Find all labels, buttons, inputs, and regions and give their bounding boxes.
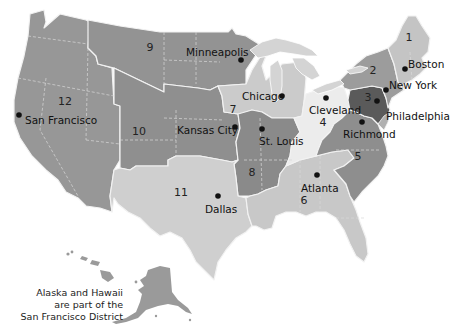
city-label: Cleveland bbox=[309, 104, 361, 116]
city-label: Minneapolis bbox=[186, 46, 249, 58]
city-label: Chicago bbox=[242, 90, 284, 102]
alaska-island bbox=[155, 315, 157, 317]
city-label: New York bbox=[389, 79, 438, 91]
city-label: Boston bbox=[408, 58, 444, 70]
city-label: Atlanta bbox=[301, 182, 339, 194]
lake-superior bbox=[250, 38, 318, 58]
district-number-7: 7 bbox=[230, 103, 237, 116]
city-kansas-city[interactable]: Kansas City bbox=[177, 124, 238, 136]
city-boston[interactable]: Boston bbox=[402, 58, 444, 72]
city-label: Dallas bbox=[205, 203, 237, 215]
district-number-1: 1 bbox=[406, 31, 413, 44]
city-dot bbox=[374, 98, 380, 104]
alaska-island bbox=[189, 319, 191, 321]
district-number-8: 8 bbox=[249, 166, 256, 179]
district-number-10: 10 bbox=[132, 125, 146, 138]
city-label: San Francisco bbox=[25, 114, 97, 126]
city-san-francisco[interactable]: San Francisco bbox=[16, 112, 97, 126]
city-chicago[interactable]: Chicago bbox=[242, 90, 285, 102]
city-dot bbox=[259, 126, 265, 132]
note-line-3: San Francisco District bbox=[0, 311, 123, 323]
city-label: Kansas City bbox=[177, 124, 238, 136]
city-label: Philadelphia bbox=[386, 110, 450, 122]
city-label: St. Louis bbox=[259, 135, 304, 147]
city-dot bbox=[323, 95, 329, 101]
city-label: Richmond bbox=[343, 128, 396, 140]
alaska-island bbox=[135, 281, 138, 284]
district-number-4: 4 bbox=[320, 116, 327, 129]
alaska-hawaii-note: Alaska and Hawaii are part of the San Fr… bbox=[0, 287, 123, 323]
district-number-3: 3 bbox=[365, 91, 372, 104]
district-number-12: 12 bbox=[58, 95, 72, 108]
federal-reserve-districts-map: 1 2 3 4 5 6 7 8 9 10 11 12 Boston New Yo… bbox=[0, 0, 452, 332]
city-new-york[interactable]: New York bbox=[383, 79, 438, 93]
city-dot bbox=[314, 172, 320, 178]
district-number-2: 2 bbox=[370, 64, 377, 77]
city-dot bbox=[359, 119, 365, 125]
note-line-1: Alaska and Hawaii bbox=[0, 287, 123, 299]
district-number-6: 6 bbox=[301, 194, 308, 207]
city-dot bbox=[215, 193, 221, 199]
district-11-region[interactable] bbox=[110, 156, 252, 280]
city-dot bbox=[16, 112, 22, 118]
city-dot bbox=[238, 57, 244, 63]
city-dot bbox=[383, 87, 389, 93]
district-number-9: 9 bbox=[147, 41, 154, 54]
city-dot bbox=[402, 66, 408, 72]
alaska[interactable] bbox=[112, 266, 192, 324]
district-number-11: 11 bbox=[174, 186, 188, 199]
hawaii[interactable] bbox=[66, 251, 114, 282]
note-line-2: are part of the bbox=[0, 299, 123, 311]
district-number-5: 5 bbox=[355, 150, 362, 163]
